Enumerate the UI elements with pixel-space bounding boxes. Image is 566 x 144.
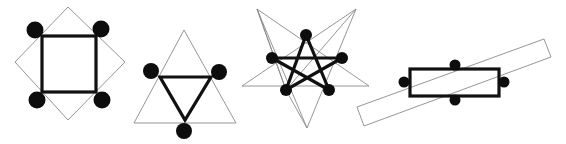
vertex-dot [176, 123, 192, 139]
vertex-dot [336, 52, 348, 64]
vertex-dot [280, 84, 292, 96]
edge-dot [450, 60, 461, 71]
vertex-dot [300, 29, 312, 41]
panel-rectangle [357, 39, 551, 126]
outer-star [242, 9, 369, 128]
vertex-dot [93, 21, 110, 38]
vertex-dot [211, 64, 227, 80]
vertex-dot [27, 22, 44, 39]
outer-tilted-rectangle [357, 39, 551, 126]
vertex-dot [29, 92, 46, 109]
outer-star-edge [307, 9, 356, 128]
edge-dot [499, 77, 510, 88]
vertex-dot [323, 84, 335, 96]
inner-square [42, 36, 96, 92]
geometric-diagram [0, 0, 566, 144]
panel-square [15, 7, 125, 120]
vertex-dot [266, 52, 278, 64]
vertex-dot [143, 63, 159, 79]
edge-dot [450, 95, 461, 106]
edge-dot [399, 77, 410, 88]
vertex-dot [94, 92, 111, 109]
inner-inverted-triangle [160, 77, 211, 120]
panel-triangle [134, 30, 236, 139]
panel-pentagram [242, 9, 369, 128]
